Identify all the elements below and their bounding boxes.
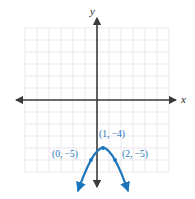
right-coordinate-label: (2, −5) bbox=[122, 150, 148, 160]
right-point bbox=[113, 158, 117, 162]
left-coordinate-label: (0, −5) bbox=[52, 150, 78, 160]
vertex-point bbox=[101, 146, 105, 150]
left-point bbox=[89, 158, 93, 162]
parabola-curve bbox=[78, 147, 128, 190]
plot-canvas bbox=[0, 0, 195, 199]
x-axis-label: x bbox=[181, 94, 186, 105]
vertex-coordinate-label: (1, −4) bbox=[99, 130, 125, 140]
parabola-figure: y x (1, −4) (0, −5) (2, −5) bbox=[0, 0, 195, 199]
y-axis-label: y bbox=[90, 6, 95, 17]
